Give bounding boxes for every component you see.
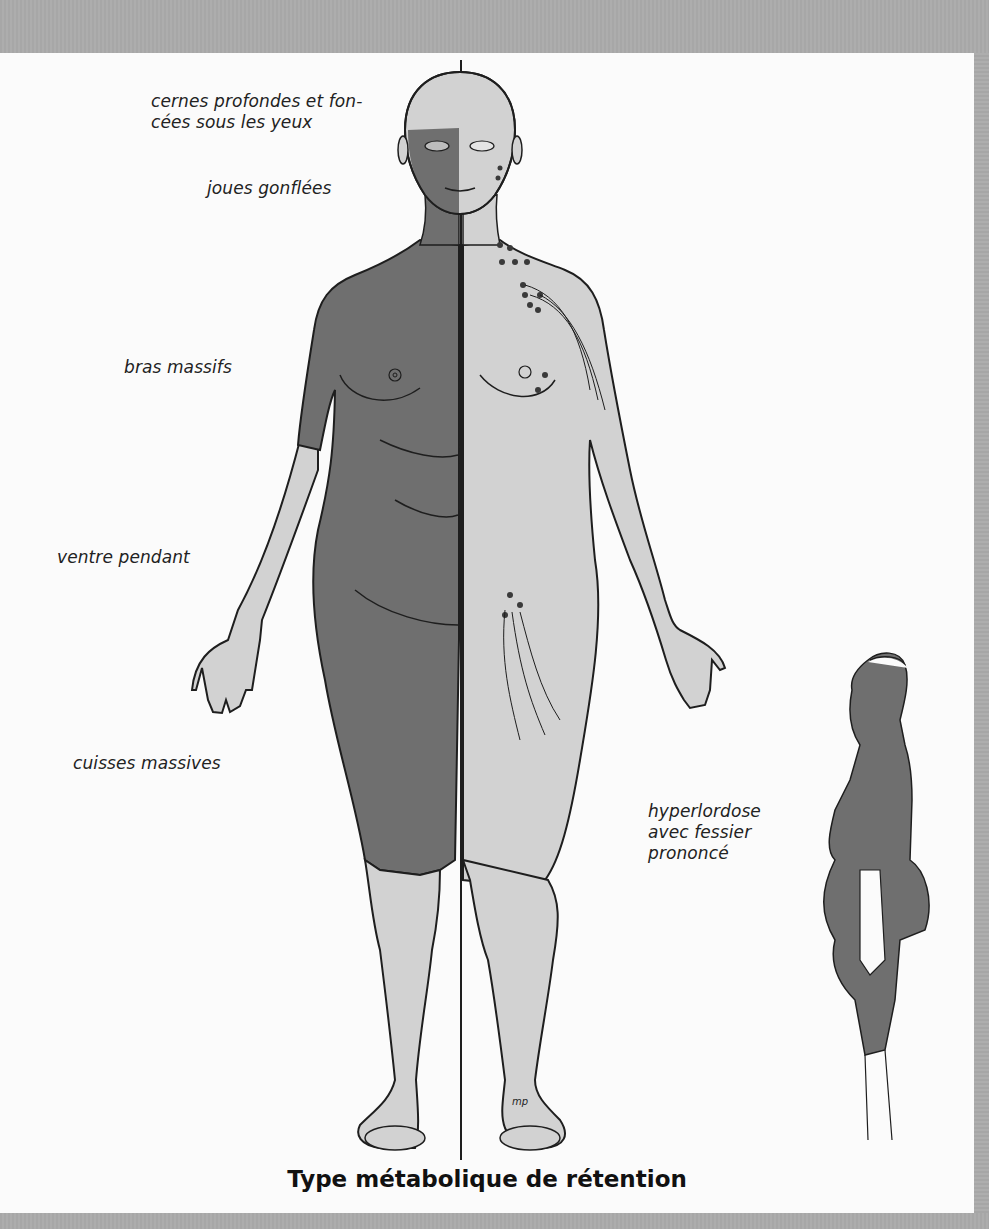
frame-bottom-border: [0, 1213, 989, 1229]
annotation-belly: ventre pendant: [57, 547, 190, 568]
figure-caption: Type métabolique de rétention: [0, 1166, 974, 1192]
annotation-thighs: cuisses massives: [73, 753, 221, 774]
annotation-posture: hyperlordose avec fessier prononcé: [648, 801, 761, 864]
frame-top-border: [0, 0, 989, 53]
frame-right-border: [974, 53, 989, 1213]
annotation-eyes: cernes profondes et fon- cées sous les y…: [151, 91, 362, 133]
illustration-panel: mp cernes profondes et fon- cées sous le…: [0, 53, 974, 1213]
annotation-cheeks: joues gonflées: [207, 178, 331, 199]
annotation-arms: bras massifs: [124, 357, 232, 378]
side-profile-figure: [0, 53, 974, 1213]
